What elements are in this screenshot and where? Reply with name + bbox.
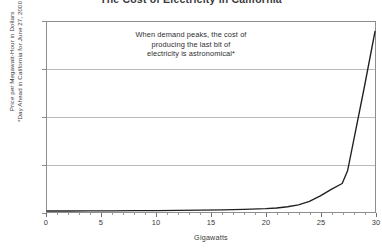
x-tick-label-25: 25 (309, 218, 333, 227)
x-tick-minor-6 (112, 213, 113, 215)
x-tick-minor-12 (178, 213, 179, 215)
x-tick-label-30: 30 (364, 218, 382, 227)
x-tick-minor-17 (233, 213, 234, 215)
x-tick-major-25 (321, 213, 322, 217)
x-tick-minor-13 (189, 213, 190, 215)
x-tick-minor-2 (68, 213, 69, 215)
x-tick-label-10: 10 (144, 218, 168, 227)
annotation-line-2: producing the last bit of (86, 40, 296, 50)
x-tick-major-10 (156, 213, 157, 217)
x-tick-minor-19 (255, 213, 256, 215)
x-tick-label-15: 15 (199, 218, 223, 227)
x-tick-minor-26 (332, 213, 333, 215)
x-tick-minor-1 (57, 213, 58, 215)
annotation-line-3: electricity is astronomical* (86, 49, 296, 59)
x-tick-major-5 (101, 213, 102, 217)
x-tick-minor-22 (288, 213, 289, 215)
x-tick-minor-11 (167, 213, 168, 215)
annotation-line-1: When demand peaks, the cost of (86, 30, 296, 40)
x-tick-major-20 (266, 213, 267, 217)
x-tick-major-0 (46, 213, 47, 217)
x-tick-minor-21 (277, 213, 278, 215)
x-tick-minor-18 (244, 213, 245, 215)
x-tick-label-5: 5 (89, 218, 113, 227)
x-tick-minor-9 (145, 213, 146, 215)
x-tick-major-30 (376, 213, 377, 217)
chart-title: The Cost of Electricity in California (0, 0, 382, 5)
x-tick-minor-23 (299, 213, 300, 215)
x-tick-minor-3 (79, 213, 80, 215)
x-tick-label-20: 20 (254, 218, 278, 227)
y-axis-title-line-2: *Day Ahead in California for June 27, 20… (16, 0, 24, 146)
chart-figure: The Cost of Electricity in California Pr… (0, 0, 382, 252)
chart-annotation: When demand peaks, the cost of producing… (86, 30, 296, 59)
x-tick-minor-8 (134, 213, 135, 215)
x-tick-minor-16 (222, 213, 223, 215)
x-axis-title: Gigawatts (46, 233, 376, 242)
x-tick-minor-24 (310, 213, 311, 215)
x-tick-minor-28 (354, 213, 355, 215)
y-axis-title: Price per Megawatt-Hour in Dollars *Day … (8, 0, 25, 146)
x-tick-major-15 (211, 213, 212, 217)
x-tick-minor-7 (123, 213, 124, 215)
x-tick-minor-4 (90, 213, 91, 215)
y-axis-title-line-1: Price per Megawatt-Hour in Dollars (8, 0, 16, 146)
x-tick-minor-27 (343, 213, 344, 215)
x-tick-label-0: 0 (34, 218, 58, 227)
x-tick-minor-14 (200, 213, 201, 215)
x-tick-minor-29 (365, 213, 366, 215)
